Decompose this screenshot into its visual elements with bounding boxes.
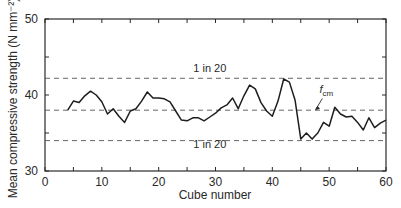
fcm-label: fcm [319, 83, 333, 98]
x-tick-label: 10 [95, 175, 109, 189]
x-tick-label: 50 [322, 175, 336, 189]
x-axis-label: Cube number [179, 188, 252, 202]
strength-line-chart: 0102030405060304050 1 in 201 in 20fcm Cu… [0, 0, 401, 208]
fcm-arrow-head [315, 106, 320, 111]
y-tick-label: 50 [25, 12, 39, 26]
x-tick-label: 20 [152, 175, 166, 189]
x-tick-label: 30 [209, 175, 223, 189]
y-tick-label: 30 [25, 164, 39, 178]
x-tick-label: 0 [42, 175, 49, 189]
y-axis-label: Mean compressive strength (N mm⁻²) [6, 0, 20, 198]
one-in-twenty-label: 1 in 20 [193, 62, 226, 74]
x-tick-label: 40 [266, 175, 280, 189]
strength-series-line [68, 79, 386, 139]
one-in-twenty-label: 1 in 20 [193, 138, 226, 150]
x-tick-label: 60 [379, 175, 393, 189]
y-tick-label: 40 [25, 88, 39, 102]
